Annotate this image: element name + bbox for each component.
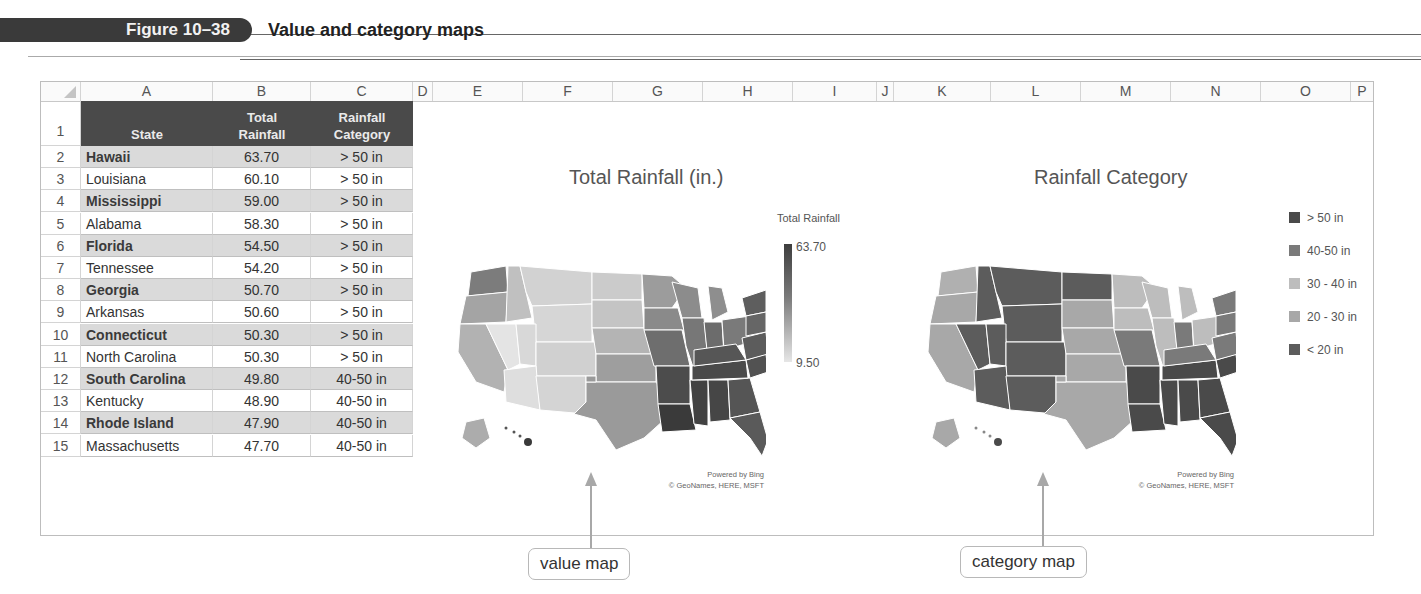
caption-divider xyxy=(28,56,1421,57)
select-all-corner[interactable] xyxy=(41,82,81,101)
value-map-usa[interactable] xyxy=(446,242,766,462)
legend-item: 40-50 in xyxy=(1289,244,1350,258)
cell-state[interactable]: Florida xyxy=(81,235,213,257)
cell-rainfall-category[interactable]: > 50 in xyxy=(311,346,413,368)
legend-label: > 50 in xyxy=(1307,211,1343,225)
cell-state[interactable]: Massachusetts xyxy=(81,435,213,457)
column-header-l[interactable]: L xyxy=(991,82,1081,101)
cell-total-rainfall[interactable]: 50.30 xyxy=(213,346,311,368)
row-number[interactable]: 10 xyxy=(41,324,81,346)
category-map-chart[interactable]: Rainfall Category xyxy=(894,102,1372,535)
row-number[interactable]: 3 xyxy=(41,168,81,190)
row-number[interactable]: 8 xyxy=(41,279,81,301)
cell-state[interactable]: Kentucky xyxy=(81,390,213,412)
row-number[interactable]: 6 xyxy=(41,235,81,257)
cell-state[interactable]: Mississippi xyxy=(81,190,213,212)
row-number-1[interactable]: 1 xyxy=(41,101,81,146)
row-number[interactable]: 7 xyxy=(41,257,81,279)
cell-state[interactable]: Connecticut xyxy=(81,324,213,346)
category-credit-line2: © GeoNames, HERE, MSFT xyxy=(1074,480,1234,491)
header-cell-state[interactable]: State xyxy=(81,101,213,146)
cell-total-rainfall[interactable]: 59.00 xyxy=(213,190,311,212)
cell-rainfall-category[interactable]: 40-50 in xyxy=(311,368,413,390)
cell-total-rainfall[interactable]: 54.20 xyxy=(213,257,311,279)
value-map-chart[interactable]: Total Rainfall (in.) xyxy=(434,102,892,535)
row-number[interactable]: 5 xyxy=(41,213,81,235)
cell-rainfall-category[interactable]: 40-50 in xyxy=(311,390,413,412)
header-total-line2: Rainfall xyxy=(213,126,311,143)
cell-total-rainfall[interactable]: 50.30 xyxy=(213,324,311,346)
row-number[interactable]: 14 xyxy=(41,412,81,434)
cell-rainfall-category[interactable]: > 50 in xyxy=(311,324,413,346)
row-number[interactable]: 12 xyxy=(41,368,81,390)
column-header-p[interactable]: P xyxy=(1351,82,1373,101)
column-header-n[interactable]: N xyxy=(1171,82,1261,101)
cell-rainfall-category[interactable]: > 50 in xyxy=(311,146,413,168)
value-map-callout: value map xyxy=(528,548,630,580)
cell-total-rainfall[interactable]: 54.50 xyxy=(213,235,311,257)
column-header-e[interactable]: E xyxy=(433,82,523,101)
row-number[interactable]: 9 xyxy=(41,301,81,323)
cell-total-rainfall[interactable]: 63.70 xyxy=(213,146,311,168)
row-number[interactable]: 11 xyxy=(41,346,81,368)
cell-rainfall-category[interactable]: > 50 in xyxy=(311,235,413,257)
cell-rainfall-category[interactable]: > 50 in xyxy=(311,301,413,323)
column-header-f[interactable]: F xyxy=(523,82,613,101)
select-all-icon xyxy=(64,86,76,98)
value-gradient-bar xyxy=(784,244,792,362)
column-header-j[interactable]: J xyxy=(877,82,894,101)
row-number[interactable]: 15 xyxy=(41,435,81,457)
column-header-m[interactable]: M xyxy=(1081,82,1171,101)
column-header-a[interactable]: A xyxy=(81,82,213,101)
cell-state[interactable]: Georgia xyxy=(81,279,213,301)
cell-state[interactable]: Hawaii xyxy=(81,146,213,168)
caption-rule-bottom xyxy=(240,59,1421,60)
cell-total-rainfall[interactable]: 49.80 xyxy=(213,368,311,390)
cell-state[interactable]: South Carolina xyxy=(81,368,213,390)
header-cell-total-rainfall[interactable]: Total Rainfall xyxy=(213,101,311,146)
cell-total-rainfall[interactable]: 60.10 xyxy=(213,168,311,190)
category-map-usa[interactable] xyxy=(916,242,1236,462)
cell-state[interactable]: Rhode Island xyxy=(81,412,213,434)
column-header-i[interactable]: I xyxy=(793,82,877,101)
row-number[interactable]: 2 xyxy=(41,146,81,168)
category-callout-arrow xyxy=(1042,484,1044,549)
column-header-d[interactable]: D xyxy=(413,82,433,101)
cell-state[interactable]: Arkansas xyxy=(81,301,213,323)
cell-total-rainfall[interactable]: 47.70 xyxy=(213,435,311,457)
cell-rainfall-category[interactable]: 40-50 in xyxy=(311,412,413,434)
column-header-o[interactable]: O xyxy=(1261,82,1351,101)
category-map-credit: Powered by Bing © GeoNames, HERE, MSFT xyxy=(1074,469,1234,491)
column-header-c[interactable]: C xyxy=(311,82,413,101)
cell-rainfall-category[interactable]: > 50 in xyxy=(311,190,413,212)
cell-state[interactable]: Alabama xyxy=(81,213,213,235)
row-number[interactable]: 13 xyxy=(41,390,81,412)
cell-total-rainfall[interactable]: 50.60 xyxy=(213,301,311,323)
cell-total-rainfall[interactable]: 47.90 xyxy=(213,412,311,434)
value-credit-line1: Powered by Bing xyxy=(604,469,764,480)
row-number[interactable]: 4 xyxy=(41,190,81,212)
cell-rainfall-category[interactable]: > 50 in xyxy=(311,168,413,190)
worksheet[interactable]: A B C D E F G H I J K L M N O P 1 State … xyxy=(40,81,1374,536)
value-legend-max: 63.70 xyxy=(796,240,826,254)
cell-total-rainfall[interactable]: 58.30 xyxy=(213,213,311,235)
cell-total-rainfall[interactable]: 50.70 xyxy=(213,279,311,301)
cell-state[interactable]: North Carolina xyxy=(81,346,213,368)
legend-label: 30 - 40 in xyxy=(1307,277,1357,291)
column-header-b[interactable]: B xyxy=(213,82,311,101)
legend-label: 20 - 30 in xyxy=(1307,310,1357,324)
cell-rainfall-category[interactable]: > 50 in xyxy=(311,257,413,279)
category-map-callout: category map xyxy=(960,546,1087,578)
cell-rainfall-category[interactable]: > 50 in xyxy=(311,213,413,235)
column-header-k[interactable]: K xyxy=(894,82,991,101)
cell-state[interactable]: Tennessee xyxy=(81,257,213,279)
column-header-h[interactable]: H xyxy=(703,82,793,101)
cell-state[interactable]: Louisiana xyxy=(81,168,213,190)
cell-rainfall-category[interactable]: > 50 in xyxy=(311,279,413,301)
cell-total-rainfall[interactable]: 48.90 xyxy=(213,390,311,412)
legend-swatch-icon xyxy=(1289,344,1300,355)
value-legend-title: Total Rainfall xyxy=(777,212,840,224)
header-cell-rainfall-category[interactable]: Rainfall Category xyxy=(311,101,413,146)
column-header-g[interactable]: G xyxy=(613,82,703,101)
cell-rainfall-category[interactable]: 40-50 in xyxy=(311,435,413,457)
